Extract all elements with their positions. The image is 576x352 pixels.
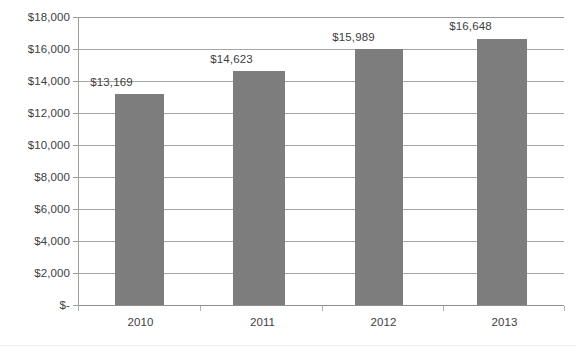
y-tick-6000 (73, 209, 78, 210)
page-bottom-edge (0, 345, 576, 346)
bar-value-label-2010: $13,169 (80, 76, 143, 88)
x-axis-label-2012: 2012 (352, 316, 415, 329)
y-tick-8000 (73, 177, 78, 178)
bar-value-label-2013: $16,648 (439, 20, 502, 32)
x-axis-label-2013: 2013 (473, 316, 536, 329)
y-tick-16000 (73, 49, 78, 50)
x-axis-label-2011: 2011 (231, 316, 294, 329)
y-axis-label-18000: $18,000 (2, 11, 70, 23)
y-axis-label-10000: $10,000 (2, 139, 70, 151)
y-tick-12000 (73, 113, 78, 114)
y-axis-labels: $18,000 $16,000 $14,000 $12,000 $10,000 … (0, 0, 70, 352)
bar-value-label-2011: $14,623 (200, 53, 263, 65)
y-axis-line (78, 17, 79, 306)
bar-2011 (233, 71, 285, 305)
bar-chart: $18,000 $16,000 $14,000 $12,000 $10,000 … (0, 0, 576, 352)
y-axis-label-0: $- (2, 299, 70, 311)
x-tick-3 (443, 306, 444, 311)
y-tick-18000 (73, 17, 78, 18)
y-axis-label-4000: $4,000 (2, 235, 70, 247)
bar-value-label-2012: $15,989 (322, 31, 385, 43)
y-axis-label-12000: $12,000 (2, 107, 70, 119)
y-tick-10000 (73, 145, 78, 146)
gridline-baseline (78, 305, 564, 306)
plot-area (78, 17, 564, 305)
x-axis-label-2010: 2010 (109, 316, 172, 329)
y-axis-label-8000: $8,000 (2, 171, 70, 183)
x-tick-2 (322, 306, 323, 311)
y-tick-14000 (73, 81, 78, 82)
y-axis-label-16000: $16,000 (2, 43, 70, 55)
bar-2012 (355, 49, 403, 305)
y-tick-4000 (73, 241, 78, 242)
y-axis-label-2000: $2,000 (2, 267, 70, 279)
y-tick-2000 (73, 273, 78, 274)
y-axis-label-14000: $14,000 (2, 75, 70, 87)
bar-2010 (115, 94, 164, 305)
x-tick-1 (200, 306, 201, 311)
gridline-18000 (78, 17, 564, 18)
y-axis-label-6000: $6,000 (2, 203, 70, 215)
x-tick-start (78, 306, 79, 311)
bar-2013 (477, 39, 527, 305)
x-tick-end (564, 306, 565, 311)
